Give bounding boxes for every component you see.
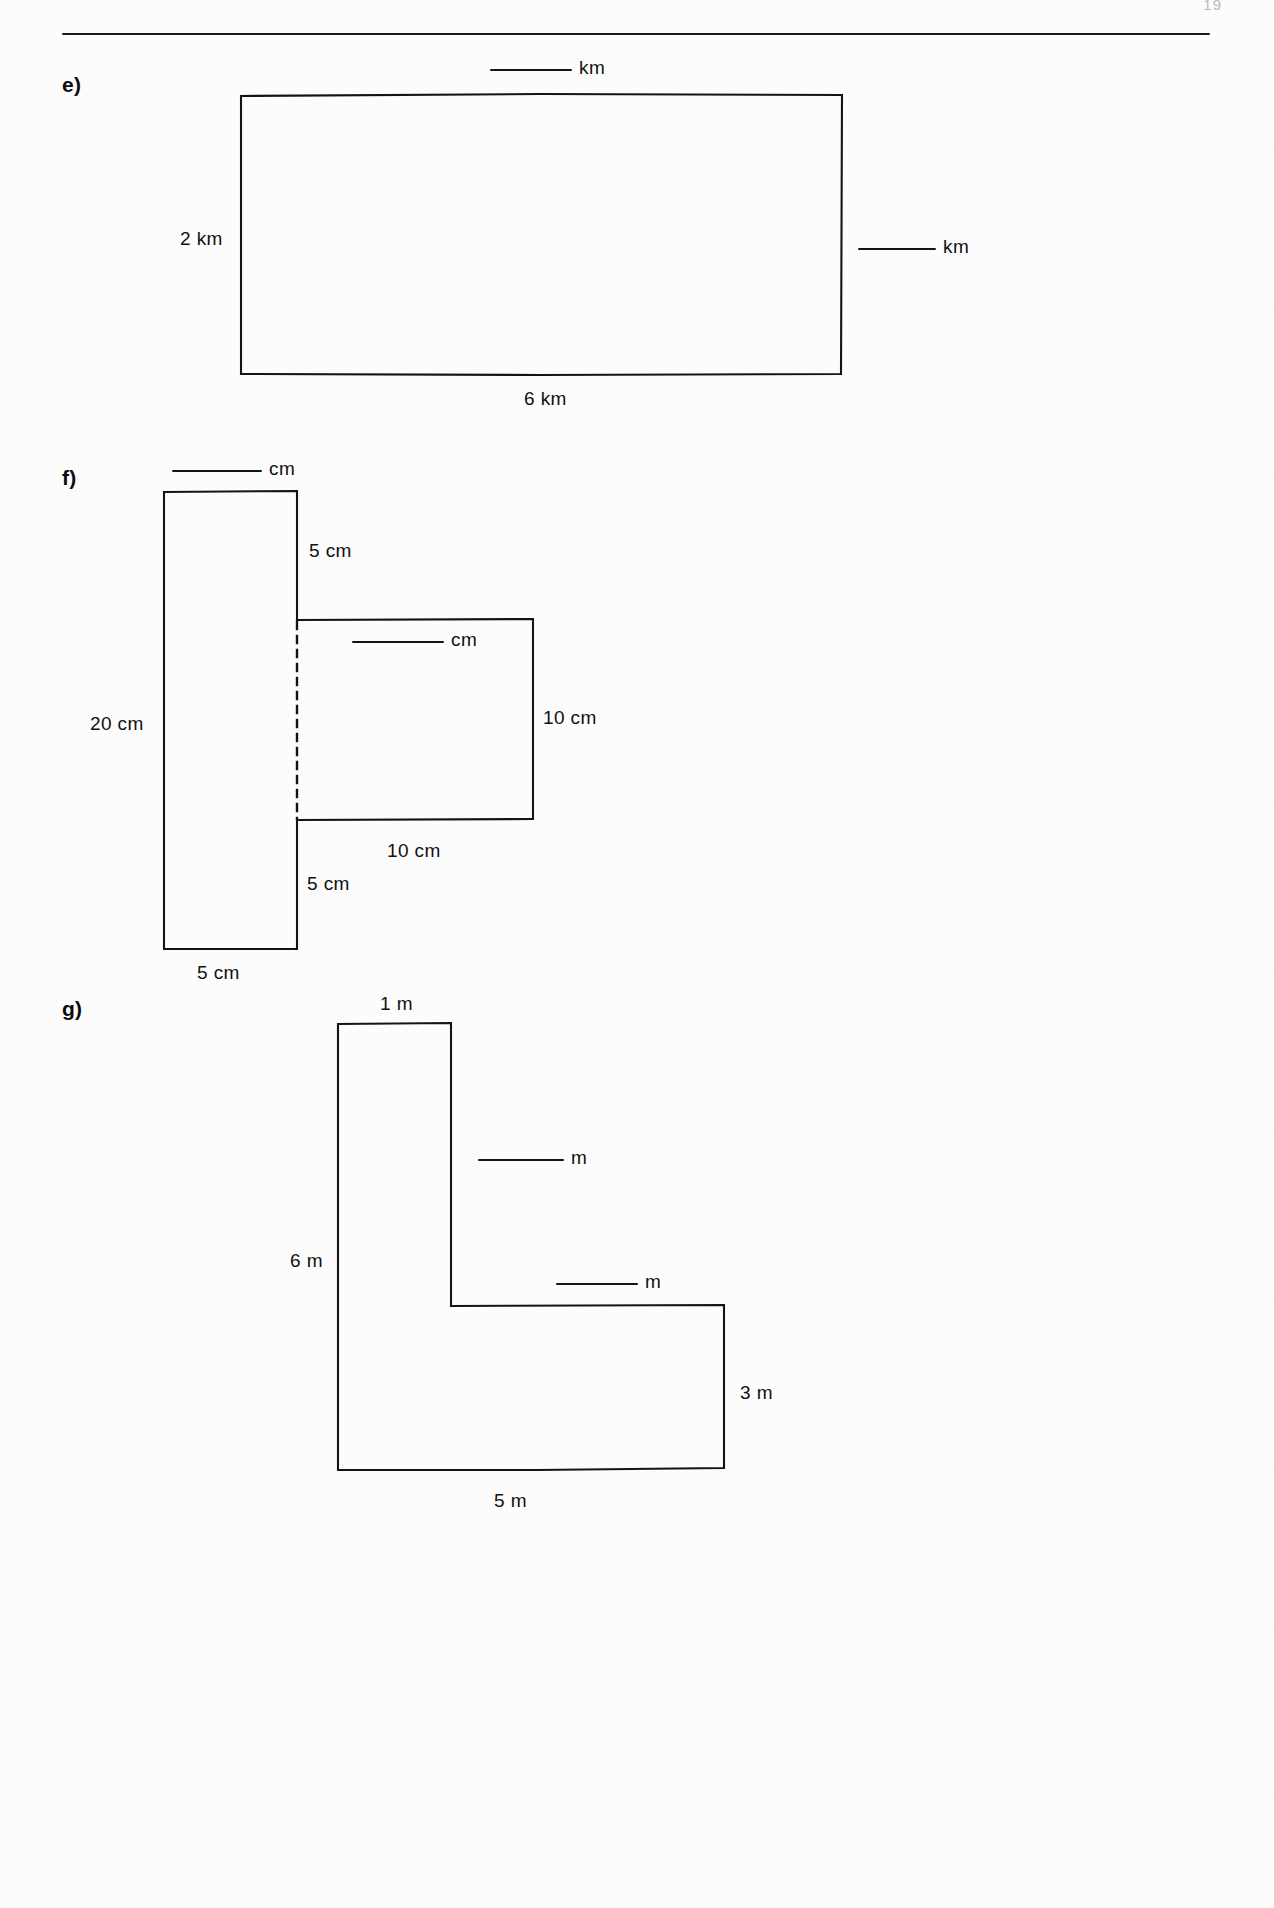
dimension-label-f-upper-step: 5 cm [309, 540, 352, 562]
answer-line[interactable] [352, 641, 444, 643]
blank-answer-f-top[interactable]: cm [172, 459, 295, 478]
dimension-label-g-right: 3 m [740, 1382, 773, 1404]
unit-label: m [645, 1272, 661, 1291]
part-letter-e: e) [62, 73, 81, 97]
dimension-label-g-top: 1 m [380, 993, 413, 1015]
part-letter-g: g) [62, 997, 82, 1021]
unit-label: cm [451, 630, 477, 649]
dimension-label-e-left: 2 km [180, 228, 223, 250]
worksheet-page: 19 e) km 2 km km 6 km f) cm [0, 0, 1274, 1908]
blank-answer-f-inner[interactable]: cm [352, 630, 477, 649]
unit-label: cm [269, 459, 295, 478]
blank-answer-e-top[interactable]: km [490, 58, 605, 77]
dimension-label-g-bottom: 5 m [494, 1490, 527, 1512]
blank-answer-e-right[interactable]: km [858, 237, 969, 256]
dimension-label-f-left: 20 cm [90, 713, 144, 735]
dimension-label-f-inner-bottom: 10 cm [387, 840, 441, 862]
answer-line[interactable] [490, 69, 572, 71]
unit-label: km [579, 58, 605, 77]
blank-answer-g-lower[interactable]: m [556, 1272, 661, 1291]
dimension-label-e-bottom: 6 km [524, 388, 567, 410]
unit-label: km [943, 237, 969, 256]
answer-line[interactable] [478, 1159, 564, 1161]
dimension-label-f-lower-step: 5 cm [307, 873, 350, 895]
part-letter-f: f) [62, 466, 76, 490]
answer-line[interactable] [172, 470, 262, 472]
header-divider [62, 33, 1210, 35]
answer-line[interactable] [556, 1283, 638, 1285]
dimension-label-f-right: 10 cm [543, 707, 597, 729]
figure-f-lshape [163, 489, 543, 956]
figure-g-lshape [337, 1021, 727, 1473]
blank-answer-g-upper[interactable]: m [478, 1148, 587, 1167]
unit-label: m [571, 1148, 587, 1167]
figure-e-rectangle [240, 92, 844, 378]
dimension-label-g-left: 6 m [290, 1250, 323, 1272]
dimension-label-f-bottom: 5 cm [197, 962, 240, 984]
answer-line[interactable] [858, 248, 936, 250]
page-number: 19 [1203, 0, 1222, 13]
